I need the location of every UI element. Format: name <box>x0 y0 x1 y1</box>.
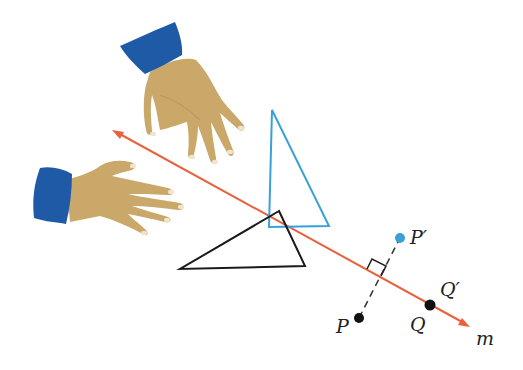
upper-hand-nail <box>227 150 233 154</box>
label-q: Q <box>410 313 426 335</box>
upper-hand-nail <box>238 126 244 130</box>
left-hand-nail <box>130 164 136 168</box>
label-p-prime: P′ <box>409 226 428 248</box>
right-angle-marker <box>367 259 386 276</box>
segment-p-pprime <box>359 238 400 318</box>
preimage-triangle <box>180 211 305 269</box>
left-hand-cuff <box>33 167 72 224</box>
label-p: P <box>335 315 350 337</box>
left-hand-nail <box>164 218 170 222</box>
point-p <box>354 313 364 323</box>
label-q-prime: Q′ <box>440 278 461 300</box>
left-hand-nail <box>178 205 184 209</box>
upper-hand-nail <box>150 132 156 136</box>
point-p-prime <box>395 233 405 243</box>
left-hand-skin <box>66 161 184 235</box>
left-hand-illustration <box>33 161 184 235</box>
arrowhead-left-icon <box>112 130 124 139</box>
image-triangle <box>269 110 329 227</box>
upper-hand-illustration <box>120 22 244 164</box>
arrowhead-right-icon <box>458 318 470 327</box>
point-q <box>425 300 436 311</box>
label-m: m <box>476 327 494 349</box>
upper-hand-skin <box>144 59 245 163</box>
upper-hand-nail <box>189 155 195 159</box>
left-hand-nail <box>168 190 174 194</box>
left-hand-nail <box>141 231 147 235</box>
upper-hand-nail <box>212 160 218 164</box>
reflection-diagram: P′ P Q′ Q m <box>0 0 523 370</box>
